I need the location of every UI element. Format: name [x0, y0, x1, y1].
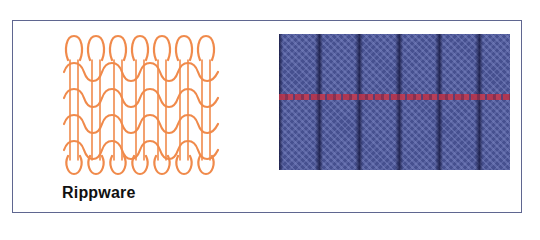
red-marker-yarn — [279, 94, 510, 100]
figure-caption: Rippware — [62, 184, 136, 202]
loop-column-group — [66, 36, 214, 60]
rib-knit-fabric-photo — [279, 34, 510, 170]
rib-knit-loop-diagram — [62, 32, 222, 177]
